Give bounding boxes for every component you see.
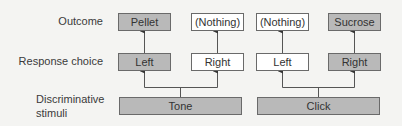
outcome-box-sucrose: Sucrose [328,13,381,31]
response-box-right-2: Right [328,53,381,71]
stimulus-box-click: Click [257,97,380,115]
response-box-left-1: Left [118,53,171,71]
outcome-box-nothing-1: (Nothing) [191,13,244,31]
outcome-box-pellet: Pellet [118,13,171,31]
response-box-left-2: Left [256,53,309,71]
outcome-box-nothing-2: (Nothing) [256,13,309,31]
response-box-right-1: Right [191,53,244,71]
stimulus-box-tone: Tone [119,97,242,115]
